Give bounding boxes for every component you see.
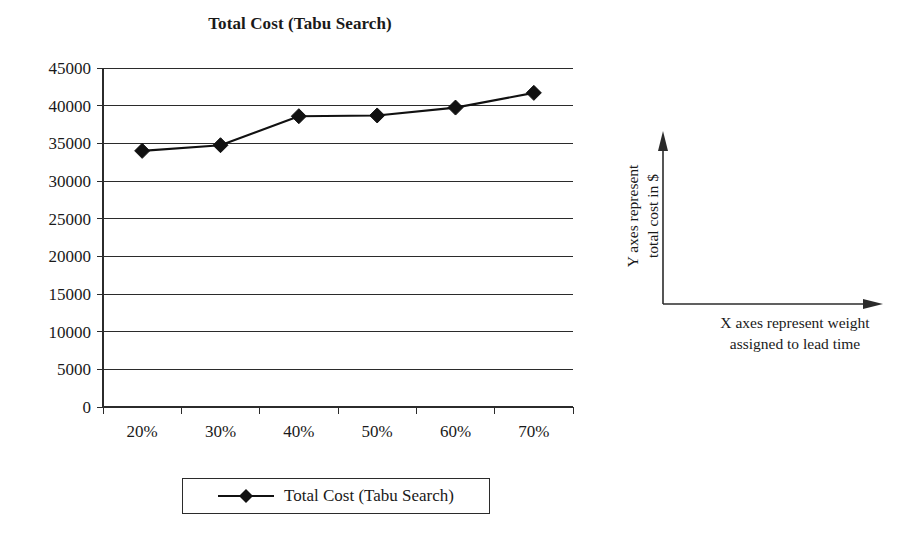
- legend-label: Total Cost (Tabu Search): [284, 486, 454, 506]
- legend-marker-icon: [218, 488, 274, 504]
- y-axis-labels-group: 0500010000150002000025000300003500040000…: [49, 59, 92, 417]
- axis-explanation-diagram: Y axes represent total cost in $ X axes …: [600, 0, 910, 550]
- line-chart-plot: 0500010000150002000025000300003500040000…: [0, 0, 600, 470]
- y-axis-tick-label: 45000: [49, 59, 92, 78]
- note-x-axis-label-line2: assigned to lead time: [680, 333, 910, 354]
- note-y-axis-label: Y axes represent total cost in $: [623, 121, 663, 311]
- note-y-axis-label-line1: Y axes represent: [623, 121, 643, 311]
- series-line-total-cost: [142, 93, 534, 151]
- note-x-axis-label-line1: X axes represent weight: [680, 312, 910, 333]
- data-point-marker: [213, 138, 228, 153]
- x-axis-tick-label: 40%: [283, 422, 314, 441]
- y-axis-ticks-group: [97, 68, 103, 407]
- note-x-axis-arrowhead: [863, 299, 883, 309]
- data-point-marker: [370, 108, 385, 123]
- x-axis-tick-label: 50%: [362, 422, 393, 441]
- chart-legend: Total Cost (Tabu Search): [182, 478, 490, 514]
- x-axis-labels-group: 20%30%40%50%60%70%: [127, 422, 550, 441]
- y-axis-tick-label: 20000: [49, 247, 92, 266]
- y-axis-tick-label: 25000: [49, 210, 92, 229]
- y-axis-tick-label: 40000: [49, 97, 92, 116]
- x-axis-tick-label: 60%: [440, 422, 471, 441]
- x-axis-ticks-group: [103, 407, 573, 414]
- data-point-marker: [526, 85, 541, 100]
- note-y-axis-label-line2: total cost in $: [643, 121, 663, 311]
- x-axis-tick-label: 30%: [205, 422, 236, 441]
- x-axis-tick-label: 20%: [127, 422, 158, 441]
- chart-figure: Total Cost (Tabu Search) 050001000015000…: [0, 0, 600, 550]
- y-axis-tick-label: 5000: [57, 360, 91, 379]
- data-point-marker: [291, 109, 306, 124]
- y-axis-tick-label: 0: [83, 398, 92, 417]
- y-axis-tick-label: 30000: [49, 172, 92, 191]
- note-x-axis-label: X axes represent weight assigned to lead…: [680, 312, 910, 354]
- y-axis-tick-label: 35000: [49, 134, 92, 153]
- y-axis-tick-label: 10000: [49, 323, 92, 342]
- data-point-marker: [448, 100, 463, 115]
- gridlines-group: [103, 68, 573, 407]
- y-axis-tick-label: 15000: [49, 285, 92, 304]
- x-axis-tick-label: 70%: [518, 422, 549, 441]
- data-point-marker: [135, 143, 150, 158]
